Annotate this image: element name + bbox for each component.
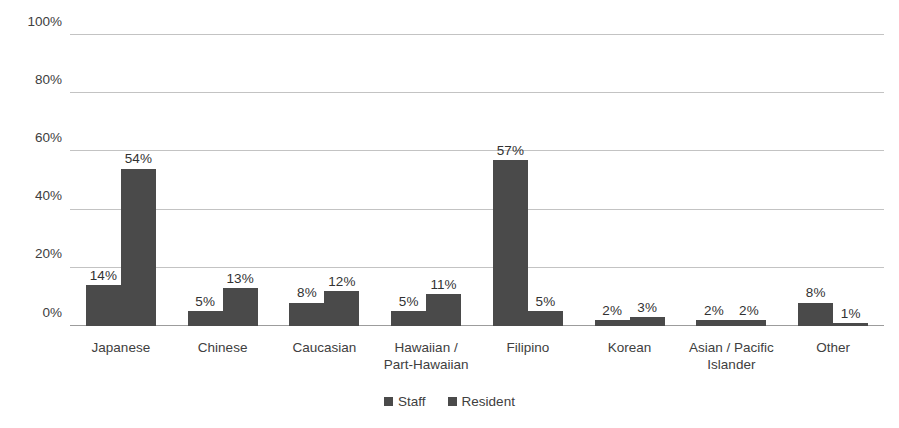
bar-value-label: 5% — [195, 295, 215, 309]
bar-staff[interactable]: 8% — [798, 303, 833, 326]
y-axis: 0%20%40%60%80%100% — [0, 35, 62, 326]
bar-slot: 12% — [324, 35, 359, 326]
x-axis-tick-label: Chinese — [172, 333, 274, 383]
bar-chart: 0%20%40%60%80%100% 14%54%5%13%8%12%5%11%… — [0, 0, 899, 428]
bar-value-label: 14% — [90, 269, 117, 283]
bar-staff[interactable]: 14% — [86, 285, 121, 326]
bar-slot: 54% — [121, 35, 156, 326]
bar-value-label: 2% — [602, 304, 622, 318]
bar-staff[interactable]: 5% — [188, 311, 223, 326]
x-axis-tick-label: Filipino — [477, 333, 579, 383]
legend-swatch-icon — [384, 397, 393, 406]
bar-value-label: 11% — [431, 278, 457, 292]
x-axis-tick-label: Korean — [579, 333, 681, 383]
bar-staff[interactable]: 2% — [696, 320, 731, 326]
bar-value-label: 12% — [328, 275, 355, 289]
bar-resident[interactable]: 54% — [121, 169, 156, 326]
bar-group: 2%3% — [579, 35, 681, 326]
bar-series-container: 14%54%5%13%8%12%5%11%57%5%2%3%2%2%8%1% — [70, 35, 884, 326]
bar-value-label: 1% — [841, 307, 861, 321]
bar-slot: 2% — [595, 35, 630, 326]
bar-value-label: 57% — [497, 144, 524, 158]
bar-staff[interactable]: 57% — [493, 160, 528, 326]
legend-entry-staff[interactable]: Staff — [384, 395, 426, 409]
bar-slot: 3% — [630, 35, 665, 326]
bar-slot: 8% — [289, 35, 324, 326]
bar-group: 5%11% — [375, 35, 477, 326]
bar-value-label: 2% — [739, 304, 759, 318]
bar-staff[interactable]: 5% — [391, 311, 426, 326]
y-axis-tick-label: 100% — [4, 15, 62, 29]
bar-slot: 5% — [188, 35, 223, 326]
bar-slot: 8% — [798, 35, 833, 326]
y-axis-tick-label: 60% — [4, 131, 62, 145]
y-axis-tick-label: 80% — [4, 73, 62, 87]
bar-slot: 1% — [833, 35, 868, 326]
chart-legend: StaffResident — [0, 395, 899, 409]
bar-value-label: 2% — [704, 304, 724, 318]
x-axis-tick-label: Other — [782, 333, 884, 383]
bar-resident[interactable]: 3% — [630, 317, 665, 326]
bar-group: 2%2% — [681, 35, 783, 326]
bar-staff[interactable]: 2% — [595, 320, 630, 326]
legend-label: Staff — [398, 395, 426, 409]
bar-slot: 2% — [696, 35, 731, 326]
x-axis-tick-label: Hawaiian / Part-Hawaiian — [375, 333, 477, 383]
x-axis: JapaneseChineseCaucasianHawaiian / Part-… — [70, 333, 884, 383]
legend-label: Resident — [462, 395, 515, 409]
bar-value-label: 5% — [399, 295, 419, 309]
bar-group: 14%54% — [70, 35, 172, 326]
x-axis-tick-label: Japanese — [70, 333, 172, 383]
bar-value-label: 3% — [637, 301, 657, 315]
y-axis-tick-label: 20% — [4, 248, 62, 262]
bar-resident[interactable]: 12% — [324, 291, 359, 326]
bar-group: 57%5% — [477, 35, 579, 326]
bar-group: 8%12% — [274, 35, 376, 326]
bar-staff[interactable]: 8% — [289, 303, 324, 326]
bar-value-label: 13% — [227, 272, 254, 286]
x-axis-tick-label: Asian / Pacific Islander — [681, 333, 783, 383]
bar-slot: 11% — [426, 35, 461, 326]
bar-slot: 13% — [223, 35, 258, 326]
bar-resident[interactable]: 13% — [223, 288, 258, 326]
bar-value-label: 54% — [125, 152, 152, 166]
x-axis-tick-label: Caucasian — [274, 333, 376, 383]
bar-slot: 2% — [731, 35, 766, 326]
bar-group: 8%1% — [782, 35, 884, 326]
bar-value-label: 8% — [806, 286, 826, 300]
bar-slot: 14% — [86, 35, 121, 326]
bar-value-label: 8% — [297, 286, 317, 300]
legend-entry-resident[interactable]: Resident — [448, 395, 515, 409]
bar-resident[interactable]: 5% — [528, 311, 563, 326]
bar-group: 5%13% — [172, 35, 274, 326]
bar-value-label: 5% — [536, 295, 556, 309]
y-axis-tick-label: 40% — [4, 189, 62, 203]
y-axis-tick-label: 0% — [4, 306, 62, 320]
bar-resident[interactable]: 2% — [731, 320, 766, 326]
bar-slot: 5% — [391, 35, 426, 326]
bar-resident[interactable]: 11% — [426, 294, 461, 326]
bar-slot: 5% — [528, 35, 563, 326]
bar-slot: 57% — [493, 35, 528, 326]
legend-swatch-icon — [448, 397, 457, 406]
bar-resident[interactable]: 1% — [833, 323, 868, 326]
